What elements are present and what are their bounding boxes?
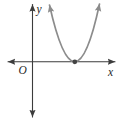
tangent-point: [72, 59, 77, 64]
x-axis-label: x: [107, 66, 114, 78]
parabola-figure: y x O: [0, 0, 122, 123]
origin-label: O: [19, 64, 28, 76]
parabola-curve: [50, 4, 100, 62]
y-axis-label: y: [36, 3, 43, 16]
parabola-graph-svg: y x O: [0, 0, 122, 123]
